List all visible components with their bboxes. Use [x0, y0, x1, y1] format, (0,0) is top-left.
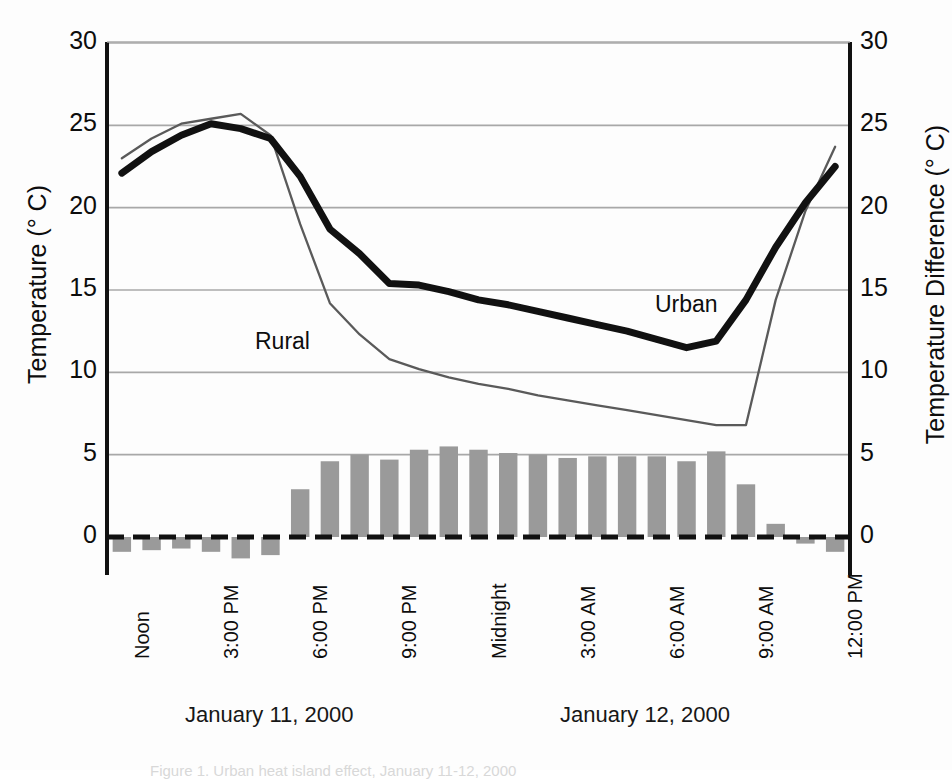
y-axis-left-tick: 25: [51, 108, 97, 137]
bar: [677, 461, 695, 537]
y-axis-right-tick: 5: [860, 438, 906, 467]
y-axis-left-tick: 15: [51, 273, 97, 302]
x-axis-tick: Noon: [131, 611, 154, 659]
bar: [737, 484, 755, 537]
series-label-rural: Rural: [255, 328, 310, 355]
bar: [558, 458, 576, 537]
bar: [618, 456, 636, 537]
y-axis-right-tick: 20: [860, 191, 906, 220]
bar: [707, 451, 725, 537]
x-axis-tick: 6:00 PM: [309, 585, 332, 659]
series-label-urban: Urban: [655, 291, 718, 318]
line-series-rural: [122, 114, 835, 425]
y-axis-right-tick: 30: [860, 26, 906, 55]
bar-series-temperature-difference: [113, 446, 845, 558]
bar: [261, 537, 279, 555]
bar: [321, 461, 339, 537]
bar: [648, 456, 666, 537]
y-axis-left-tick: 20: [51, 191, 97, 220]
bar: [499, 453, 517, 537]
line-series-urban: [122, 124, 835, 348]
y-axis-right-tick: 0: [860, 520, 906, 549]
bar: [410, 450, 428, 537]
x-axis-tick: 3:00 PM: [220, 585, 243, 659]
x-axis-tick: 12:00 PM: [844, 573, 867, 659]
bar: [440, 446, 458, 537]
bar: [529, 455, 547, 537]
y-axis-left-tick: 30: [51, 26, 97, 55]
x-axis-tick: 9:00 AM: [755, 586, 778, 659]
gridlines: [107, 43, 850, 455]
x-axis-tick: 3:00 AM: [577, 586, 600, 659]
x-axis-tick: 9:00 PM: [398, 585, 421, 659]
bar: [291, 489, 309, 537]
bar: [469, 450, 487, 537]
date-label-right: January 12, 2000: [560, 702, 730, 728]
date-label-left: January 11, 2000: [185, 702, 353, 728]
y-axis-right-title: Temperature Difference (° C): [921, 85, 950, 485]
y-axis-right-tick: 15: [860, 273, 906, 302]
bar: [350, 455, 368, 537]
x-axis-tick: Midnight: [488, 583, 511, 659]
figure-caption: Figure 1. Urban heat island effect, Janu…: [150, 762, 516, 779]
y-axis-left-tick: 0: [51, 520, 97, 549]
bar: [380, 460, 398, 537]
bar: [232, 537, 250, 558]
bar: [588, 456, 606, 537]
y-axis-right-tick: 25: [860, 108, 906, 137]
y-axis-left-tick: 5: [51, 438, 97, 467]
y-axis-left-title: Temperature (° C): [23, 85, 52, 485]
y-axis-left-tick: 10: [51, 355, 97, 384]
x-axis-tick: 6:00 AM: [666, 586, 689, 659]
y-axis-right-tick: 10: [860, 355, 906, 384]
